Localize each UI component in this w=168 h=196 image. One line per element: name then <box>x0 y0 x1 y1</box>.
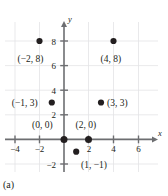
data-point <box>36 38 42 44</box>
point-label: (0, 0) <box>32 120 53 131</box>
data-point <box>61 136 68 143</box>
data-point <box>73 149 79 155</box>
data-point <box>85 136 92 143</box>
point-label: (4, 8) <box>101 54 122 65</box>
data-point <box>49 99 55 105</box>
x-tick-label: 6 <box>136 144 141 154</box>
y-tick-label: 8 <box>52 37 57 47</box>
y-tick-label: 4 <box>52 86 57 96</box>
x-axis <box>5 136 158 144</box>
x-tick-label: 4 <box>111 144 116 154</box>
y-axis <box>60 21 68 172</box>
y-tick-label: −2 <box>46 160 56 170</box>
x-axis-label: x <box>157 128 162 138</box>
data-point <box>110 38 116 44</box>
data-point <box>98 99 104 105</box>
x-tick-label: 2 <box>87 144 92 154</box>
point-label: (2, 0) <box>76 120 97 131</box>
coordinate-plane-figure: x y −4 −2 2 4 6 8 6 4 2 −2 <box>0 0 168 196</box>
y-tick-label: 6 <box>52 61 57 71</box>
y-axis-label: y <box>67 14 72 24</box>
point-label: (3, 3) <box>107 98 128 109</box>
point-labels: (−2, 8) (4, 8) (−1, 3) (3, 3) (0, 0) (2,… <box>12 54 128 171</box>
point-label: (−1, 3) <box>12 98 38 109</box>
point-label: (1, −1) <box>81 160 107 171</box>
x-tick-label: −2 <box>35 144 45 154</box>
x-tick-label: −4 <box>10 144 20 154</box>
figure-caption: (a) <box>3 179 14 190</box>
scatter-plot-svg: x y −4 −2 2 4 6 8 6 4 2 −2 <box>0 0 168 196</box>
point-label: (−2, 8) <box>18 54 44 65</box>
